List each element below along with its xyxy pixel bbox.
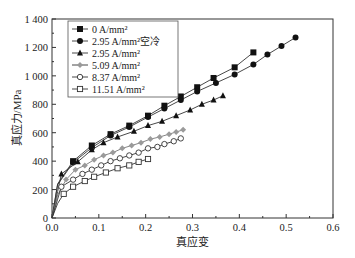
x-tick-label: 0.4	[233, 222, 247, 233]
series-4	[52, 136, 183, 218]
legend-label: 2.95 A/mm²空冷	[92, 35, 160, 47]
x-tick-label: 0.6	[326, 222, 339, 233]
y-axis-label: 真应力/MPa	[10, 89, 23, 146]
y-tick-label: 800	[32, 99, 48, 110]
x-tick-label: 0.1	[92, 222, 105, 233]
legend-label: 11.51 A/mm²	[92, 84, 145, 95]
x-tick-label: 0.2	[139, 222, 152, 233]
x-tick-label: 0.3	[186, 222, 199, 233]
stress-strain-chart: 0.00.10.20.30.40.50.602004006008001 0001…	[0, 0, 355, 258]
x-axis-label: 真应变	[176, 235, 209, 248]
y-tick-label: 1 200	[24, 42, 48, 53]
legend-label: 8.37 A/mm²	[92, 72, 140, 83]
y-tick-label: 400	[32, 156, 48, 167]
y-tick-label: 1 000	[24, 71, 48, 82]
series-3	[52, 127, 186, 218]
y-tick-label: 200	[32, 185, 48, 196]
y-tick-label: 1 400	[24, 14, 48, 25]
legend-label: 5.09 A/mm²	[92, 60, 140, 71]
y-tick-label: 0	[43, 213, 48, 224]
x-tick-label: 0.5	[280, 222, 293, 233]
legend-label: 2.95 A/mm²	[92, 48, 140, 59]
y-tick-label: 600	[32, 128, 48, 139]
legend-label: 0 A/mm²	[92, 24, 128, 35]
legend: 0 A/mm²2.95 A/mm²空冷2.95 A/mm²5.09 A/mm²8…	[68, 21, 178, 97]
